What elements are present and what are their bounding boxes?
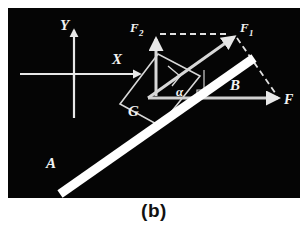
force-decomposition-diagram: Y X A B G F F 1 F 2 α — [8, 8, 300, 198]
label-F2: F 2 — [129, 20, 144, 38]
label-A: A — [45, 155, 56, 171]
diagram-panel: Y X A B G F F 1 F 2 α — [8, 8, 300, 198]
label-F2-subscript: 2 — [138, 28, 144, 38]
figure-caption: (b) — [0, 200, 308, 222]
label-Y: Y — [60, 17, 71, 33]
label-F1-base: F — [239, 20, 249, 35]
label-alpha-angle: α — [176, 84, 184, 99]
vector-F1[interactable] — [148, 37, 234, 98]
label-F1: F 1 — [239, 20, 254, 38]
label-F: F — [283, 92, 294, 107]
label-X: X — [111, 51, 123, 67]
label-F2-base: F — [129, 20, 139, 35]
label-B: B — [229, 77, 240, 93]
label-F1-subscript: 1 — [249, 28, 254, 38]
label-G: G — [128, 103, 139, 119]
figure-root: Y X A B G F F 1 F 2 α (b) — [0, 0, 308, 230]
